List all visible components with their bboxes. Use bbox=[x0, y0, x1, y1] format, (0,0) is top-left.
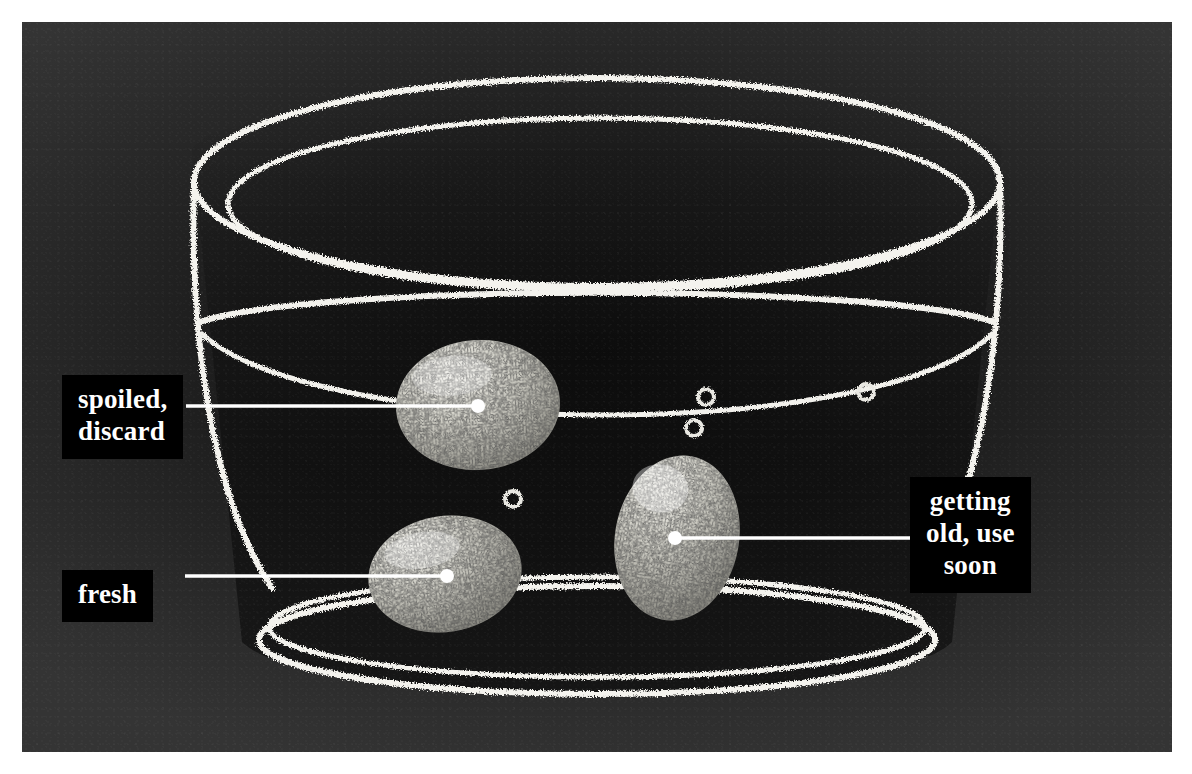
leader-dot-spoiled bbox=[471, 399, 485, 413]
leader-dot-fresh bbox=[440, 569, 454, 583]
bowl-interior-shadow bbox=[192, 100, 1002, 695]
page-root: spoiled, discard fresh getting old, use … bbox=[0, 0, 1192, 774]
callout-label-fresh: fresh bbox=[62, 570, 153, 622]
callout-label-spoiled: spoiled, discard bbox=[62, 375, 183, 459]
callout-label-getting-old: getting old, use soon bbox=[910, 477, 1031, 593]
chalk-artwork bbox=[22, 22, 1172, 752]
illustration-photo: spoiled, discard fresh getting old, use … bbox=[22, 22, 1172, 752]
leader-dot-getting-old bbox=[668, 531, 682, 545]
